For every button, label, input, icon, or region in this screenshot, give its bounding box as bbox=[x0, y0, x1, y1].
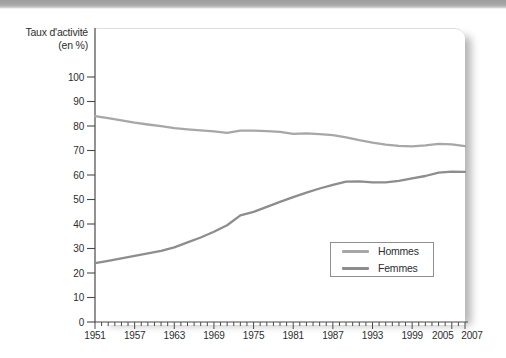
x-tick-label: 2007 bbox=[461, 330, 483, 341]
x-tick-label: 1957 bbox=[124, 330, 146, 341]
y-tick-label: 80 bbox=[73, 121, 84, 132]
x-tick-label: 1999 bbox=[401, 330, 423, 341]
chart-legend: Hommes Femmes bbox=[330, 242, 434, 277]
y-axis-ticks: 0102030405060708090100 bbox=[68, 72, 95, 328]
y-tick-label: 20 bbox=[73, 268, 84, 279]
y-tick-label: 60 bbox=[73, 170, 84, 181]
y-tick-label: 90 bbox=[73, 96, 84, 107]
legend-label-femmes: Femmes bbox=[378, 262, 418, 274]
y-tick-label: 30 bbox=[73, 243, 84, 254]
activity-rate-chart: 0102030405060708090100195119571963196919… bbox=[0, 0, 506, 358]
legend-item-femmes: Femmes bbox=[342, 262, 433, 274]
y-tick-label: 40 bbox=[73, 219, 84, 230]
x-tick-label: 1951 bbox=[84, 330, 106, 341]
x-axis-ticks: 1951195719631969197519811987199319992005… bbox=[84, 322, 483, 341]
femmes-line-swatch bbox=[342, 267, 369, 270]
legend-label-hommes: Hommes bbox=[378, 245, 419, 257]
y-tick-label: 100 bbox=[68, 72, 85, 83]
x-tick-label: 1981 bbox=[282, 330, 304, 341]
y-tick-label: 50 bbox=[73, 194, 84, 205]
y-tick-label: 10 bbox=[73, 292, 84, 303]
legend-item-hommes: Hommes bbox=[342, 245, 433, 257]
x-tick-label: 1969 bbox=[203, 330, 225, 341]
hommes-line bbox=[95, 116, 465, 146]
axis-lines bbox=[95, 28, 468, 322]
x-tick-label: 1987 bbox=[322, 330, 344, 341]
x-tick-label: 2005 bbox=[432, 330, 454, 341]
y-tick-label: 0 bbox=[79, 317, 85, 328]
x-tick-label: 1963 bbox=[164, 330, 186, 341]
x-tick-label: 1975 bbox=[243, 330, 265, 341]
x-tick-label: 1993 bbox=[362, 330, 384, 341]
y-tick-label: 70 bbox=[73, 145, 84, 156]
hommes-line-swatch bbox=[342, 250, 369, 253]
